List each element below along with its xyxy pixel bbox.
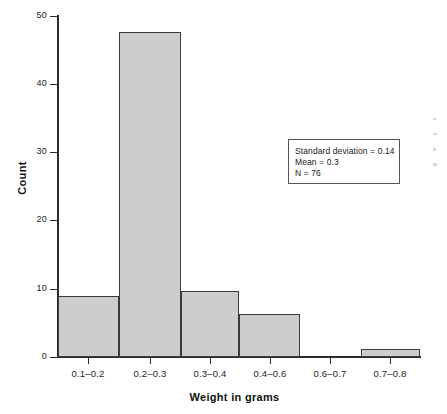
y-tick-50 — [50, 16, 57, 17]
y-tick-30 — [50, 152, 57, 153]
y-tick-10 — [50, 289, 57, 290]
bar-1 — [119, 32, 181, 357]
x-tick-0 — [88, 358, 89, 364]
y-tick-40 — [50, 84, 57, 85]
y-tick-label-40: 40 — [13, 79, 47, 88]
x-tick-2 — [210, 358, 211, 364]
x-tick-4 — [330, 358, 331, 364]
y-tick-20 — [50, 220, 57, 221]
x-axis-title: Weight in grams — [0, 391, 447, 403]
x-tick-5 — [390, 358, 391, 364]
page-edge-artifact — [433, 133, 437, 135]
x-tick-3 — [270, 358, 271, 364]
bar-2 — [181, 291, 239, 357]
y-tick-label-0: 0 — [13, 352, 47, 361]
page-edge-artifact — [433, 118, 436, 120]
bar-3 — [239, 314, 300, 357]
histogram-figure: 50 40 30 20 10 0 0.1–0.2 0.2–0.3 0.3–0.4… — [0, 0, 447, 414]
x-axis-title-text: Weight in grams — [190, 391, 280, 403]
bar-0 — [58, 296, 119, 357]
page-edge-artifact — [433, 148, 436, 151]
y-tick-0 — [50, 357, 57, 358]
x-tick-label-0: 0.1–0.2 — [53, 368, 123, 379]
stat-sample-size: N = 76 — [295, 168, 399, 179]
x-tick-label-5: 0.7–0.8 — [355, 368, 425, 379]
y-tick-label-10: 10 — [13, 284, 47, 293]
stat-standard-deviation: Standard deviation = 0.14 — [295, 146, 399, 157]
statistics-annotation-box: Standard deviation = 0.14 Mean = 0.3 N =… — [288, 139, 400, 184]
page-edge-artifact — [433, 163, 437, 166]
stat-mean: Mean = 0.3 — [295, 157, 399, 168]
bar-5 — [361, 349, 420, 357]
y-axis-title: Count — [16, 128, 28, 228]
y-tick-label-50: 50 — [13, 11, 47, 20]
x-tick-1 — [150, 358, 151, 364]
